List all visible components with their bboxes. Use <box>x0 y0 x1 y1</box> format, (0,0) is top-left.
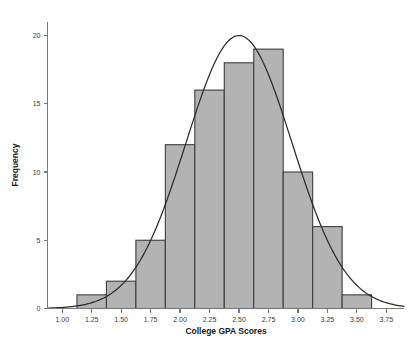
x-axis-title: College GPA Scores <box>185 326 267 336</box>
y-tick-label: 5 <box>37 237 41 244</box>
x-tick-label: 3.50 <box>350 316 364 323</box>
histogram-bar <box>224 63 253 309</box>
histogram-bar <box>342 295 371 309</box>
x-tick-label: 1.50 <box>114 316 128 323</box>
y-tick-label: 10 <box>33 169 41 176</box>
x-tick-label: 3.75 <box>380 316 394 323</box>
histogram-bar <box>165 145 194 309</box>
histogram-bar <box>195 90 224 308</box>
x-tick-label: 1.75 <box>144 316 158 323</box>
histogram-bar <box>313 227 342 309</box>
x-tick-label: 2.00 <box>173 316 187 323</box>
histogram-bar <box>254 49 283 308</box>
chart-canvas: 05101520 1.001.251.501.752.002.252.502.7… <box>0 0 418 354</box>
x-tick-label: 2.50 <box>232 316 246 323</box>
x-tick-label: 1.25 <box>85 316 99 323</box>
x-tick-label: 2.25 <box>203 316 217 323</box>
y-tick-label: 20 <box>33 32 41 39</box>
y-tick-label: 15 <box>33 100 41 107</box>
histogram-figure: 05101520 1.001.251.501.752.002.252.502.7… <box>0 0 418 354</box>
y-tick-label: 0 <box>37 305 41 312</box>
x-tick-label: 1.00 <box>55 316 69 323</box>
x-tick-label: 3.25 <box>321 316 335 323</box>
y-axis-title: Frequency <box>10 143 20 186</box>
x-tick-label: 2.75 <box>262 316 276 323</box>
histogram-bar <box>136 240 165 308</box>
x-tick-label: 3.00 <box>291 316 305 323</box>
histogram-bar <box>77 295 106 309</box>
